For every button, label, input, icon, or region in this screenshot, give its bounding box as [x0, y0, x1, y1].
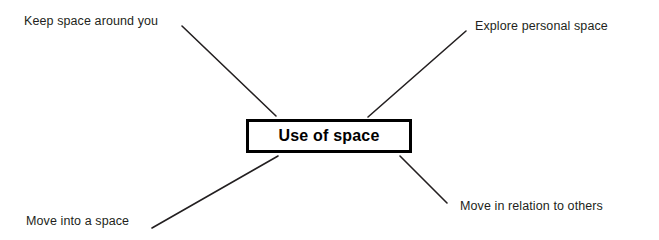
- branch-label-explore-personal-space: Explore personal space: [475, 19, 608, 34]
- branch-label-move-into-a-space: Move into a space: [26, 214, 129, 229]
- connector-line-move-in-relation-to-others: [400, 156, 447, 203]
- branch-label-keep-space-around-you: Keep space around you: [24, 14, 158, 29]
- connector-line-move-into-a-space: [152, 156, 278, 228]
- connector-line-explore-personal-space: [368, 31, 466, 117]
- center-node-label: Use of space: [278, 127, 379, 145]
- connector-line-keep-space-around-you: [182, 26, 276, 116]
- center-node-use-of-space: Use of space: [246, 119, 412, 153]
- branch-label-move-in-relation-to-others: Move in relation to others: [460, 199, 603, 214]
- diagram-canvas: Keep space around you Explore personal s…: [0, 0, 659, 240]
